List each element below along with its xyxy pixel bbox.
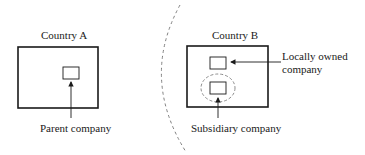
- subsidiary-company-box: [210, 82, 226, 94]
- country-a-title: Country A: [41, 29, 87, 41]
- subsidiary-highlight-ellipse: [201, 74, 235, 102]
- locally-owned-label-line2: company: [282, 63, 322, 75]
- border-arc: [161, 5, 186, 152]
- country-a-box: [18, 47, 98, 108]
- parent-company-label: Parent company: [40, 122, 111, 134]
- subsidiary-company-label: Subsidiary company: [191, 122, 281, 134]
- locally-owned-company-box: [210, 57, 226, 69]
- locally-owned-label-line1: Locally owned: [282, 50, 348, 62]
- parent-company-box: [63, 67, 79, 79]
- country-b-title: Country B: [212, 29, 258, 41]
